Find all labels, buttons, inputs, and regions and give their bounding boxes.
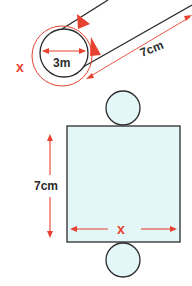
net-height-label: 7cm	[34, 179, 58, 193]
circumference-arrow-right	[90, 37, 101, 56]
circumference-arrow-top	[77, 14, 90, 29]
length-label: 7cm	[138, 38, 166, 60]
net-width-label: x	[117, 221, 125, 237]
cylinder-3d: 3m 7cm x	[16, 0, 192, 86]
diameter-label: 3m	[53, 56, 70, 70]
circumference-label: x	[16, 59, 24, 75]
net-top-circle	[106, 91, 140, 125]
cylinder-net: 7cm x	[34, 91, 180, 277]
net-bottom-circle	[106, 243, 140, 277]
cylinder-diagram: 3m 7cm x 7cm x	[0, 0, 192, 286]
cylinder-bottom-edge	[83, 5, 192, 67]
